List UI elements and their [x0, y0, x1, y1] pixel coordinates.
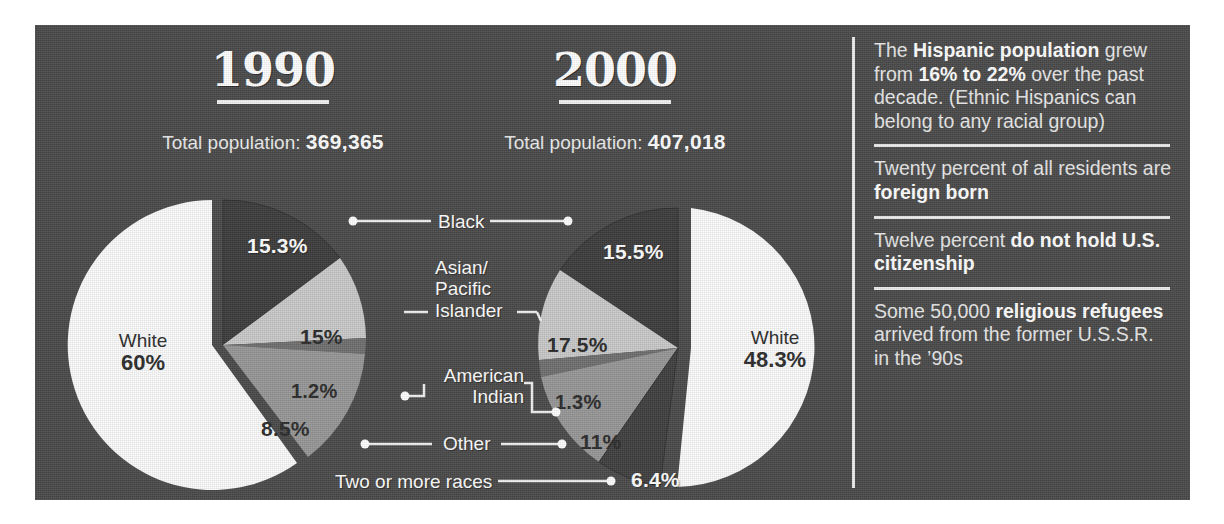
slice-label-2000-amerind: 1.3% — [555, 391, 601, 414]
white-label-value-2000: 48.3% — [744, 347, 806, 372]
fact-rule-3 — [874, 287, 1170, 290]
slice-label-2000-two-or-more: 6.4% — [631, 468, 680, 492]
legend-asian-line2: Pacific — [435, 278, 491, 299]
leader-1990-amerind — [405, 384, 424, 396]
legend-amerind-line2: Indian — [472, 386, 524, 407]
fact-hispanic-population: The Hispanic population grew from 16% to… — [874, 39, 1174, 135]
fact-rule-2 — [874, 216, 1170, 219]
legend-label-other: Other — [443, 433, 491, 454]
legend-label-black: Black — [438, 211, 484, 232]
fact-foreign-born: Twenty percent of all residents are fore… — [874, 157, 1174, 206]
slice-label-2000-white: White 48.3% — [715, 327, 835, 373]
slice-label-1990-white: White 60% — [83, 330, 203, 376]
white-label-text-2000: White — [751, 327, 800, 348]
white-label-text-1990: White — [119, 330, 168, 351]
year-underline-2000 — [559, 100, 671, 104]
facts-list: The Hispanic population grew from 16% to… — [874, 39, 1174, 373]
legend-label-american-indian: American Indian — [426, 365, 524, 408]
year-title-2000: 2000 — [525, 43, 705, 97]
total-population-label-1990: Total population: — [162, 132, 300, 153]
legend-asian-line3: Islander — [435, 300, 503, 321]
slice-label-1990-asian: 15% — [300, 325, 343, 349]
year-title-1990: 1990 — [183, 43, 363, 97]
year-underline-1990 — [217, 100, 329, 104]
white-label-value-1990: 60% — [121, 350, 165, 375]
leader-dot-1990-amerind — [401, 392, 410, 401]
slice-label-1990-other: 8.5% — [261, 417, 310, 441]
slice-label-1990-black: 15.3% — [247, 234, 308, 258]
infographic-panel: 1990 Total population: 369,365 2000 Tota… — [35, 25, 1190, 500]
total-population-2000: Total population: 407,018 — [445, 130, 785, 154]
slice-label-2000-black: 15.5% — [603, 240, 664, 264]
total-population-1990: Total population: 369,365 — [103, 130, 443, 154]
slice-label-2000-other: 11% — [580, 430, 621, 454]
legend-label-asian-pacific-islander: Asian/ Pacific Islander — [435, 257, 503, 321]
fact-citizenship: Twelve percent do not hold U.S. citizens… — [874, 229, 1174, 278]
legend-asian-line1: Asian/ — [435, 257, 488, 278]
fact-rule-1 — [874, 144, 1170, 147]
facts-panel: The Hispanic population grew from 16% to… — [852, 25, 1190, 500]
total-population-label-2000: Total population: — [504, 132, 642, 153]
total-population-value-2000: 407,018 — [648, 130, 726, 153]
legend-label-two-or-more-races: Two or more races — [335, 471, 492, 492]
slice-label-2000-asian: 17.5% — [547, 333, 608, 357]
fact-religious-refugees: Some 50,000 religious refugees arrived f… — [874, 300, 1174, 373]
charts-area: 1990 Total population: 369,365 2000 Tota… — [35, 25, 852, 500]
legend-amerind-line1: American — [444, 365, 524, 386]
facts-vertical-divider — [852, 37, 855, 488]
total-population-value-1990: 369,365 — [306, 130, 384, 153]
slice-label-1990-amerind: 1.2% — [291, 380, 337, 403]
